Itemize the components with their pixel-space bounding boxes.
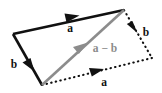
- vector-diagram: a b b a a − b: [0, 0, 162, 93]
- edge-b-right-arrowhead-icon: [127, 21, 138, 33]
- label-b-left: b: [11, 58, 17, 70]
- edge-b-left-line: [13, 34, 42, 85]
- edge-b-left-arrowhead-icon: [23, 58, 35, 72]
- label-a-bottom: a: [101, 76, 107, 88]
- edge-b-left: [13, 34, 42, 85]
- label-a-top: a: [67, 22, 73, 34]
- label-b-right: b: [143, 26, 149, 38]
- edge-a-minus-b-arrowhead-icon: [73, 43, 88, 55]
- vector-diagram-canvas: a b b a a − b: [0, 0, 162, 93]
- label-a-minus-b: a − b: [93, 42, 117, 54]
